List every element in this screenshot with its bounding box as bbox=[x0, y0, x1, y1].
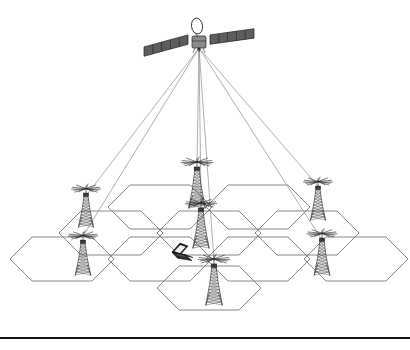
tower-brace bbox=[80, 247, 85, 250]
figure-canvas bbox=[0, 0, 410, 350]
hex-cell-cell-r1-c1 bbox=[108, 185, 212, 229]
satellite-feed-horn bbox=[197, 47, 200, 50]
tower-equipment-box bbox=[211, 264, 217, 268]
satellite-cell-network-figure bbox=[0, 0, 410, 350]
cell-tower-group bbox=[68, 157, 337, 305]
cell-tower-tower-center-lower bbox=[198, 254, 230, 305]
tower-equipment-box bbox=[194, 167, 200, 171]
satellite-bus-body bbox=[192, 36, 206, 48]
beam-to-tower-east-upper bbox=[199, 48, 318, 186]
satellite-strut-right bbox=[203, 48, 205, 53]
tower-equipment-box bbox=[83, 193, 88, 196]
mobile-terminal-laptop bbox=[172, 243, 193, 261]
tower-equipment-box bbox=[80, 240, 85, 244]
hex-cell-cell-r3-c0 bbox=[10, 237, 114, 281]
hex-cell-cell-r2-c0 bbox=[59, 211, 163, 255]
satellite-strut-left bbox=[193, 48, 195, 53]
beam-to-tower-center-lower bbox=[199, 48, 214, 261]
cell-tower-tower-center-mid bbox=[185, 198, 216, 248]
cell-tower-tower-east-upper bbox=[304, 177, 333, 220]
hex-cell-cell-r3-c2 bbox=[206, 237, 310, 281]
hex-cell-cell-r1-c2 bbox=[206, 185, 310, 229]
cell-tower-tower-west-upper bbox=[72, 184, 101, 227]
tower-brace bbox=[81, 247, 86, 250]
hex-cell-cell-r2-c2 bbox=[255, 211, 359, 255]
tower-equipment-box bbox=[315, 186, 320, 189]
satellite-solar-panel-left bbox=[144, 35, 188, 56]
satellite-dish-antenna bbox=[190, 17, 203, 34]
hex-cell-cell-r2-c1 bbox=[157, 211, 261, 255]
beam-to-tower-center-upper bbox=[197, 48, 199, 163]
beam-to-tower-west-lower bbox=[83, 48, 199, 236]
tower-equipment-box bbox=[319, 238, 324, 242]
beam-to-tower-west-upper bbox=[86, 48, 199, 196]
satellite-solar-panel-right bbox=[210, 29, 254, 45]
communications-satellite bbox=[144, 17, 254, 56]
hex-cell-cell-r3-c1 bbox=[108, 237, 212, 281]
tower-equipment-box bbox=[198, 208, 204, 212]
